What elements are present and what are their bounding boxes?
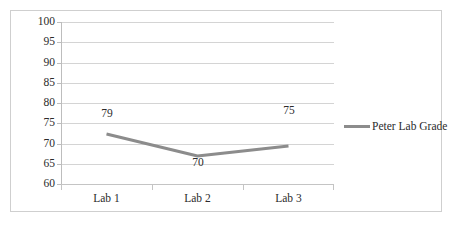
data-label-lab-2: 70 [176,157,220,169]
x-axis-tick [333,185,334,190]
y-axis-tick-label: 65 [15,158,55,170]
x-axis-tick [243,185,244,190]
y-axis-tick-label: 90 [15,57,55,69]
data-label-lab-1: 79 [85,108,129,120]
chart-frame: 100 95 90 85 80 75 70 65 60 Lab 1 Lab 2 … [10,10,442,212]
x-axis-label-lab-3: Lab 3 [243,193,334,205]
y-axis-tick-label: 80 [15,97,55,109]
legend: Peter Lab Grade [344,121,447,133]
x-axis-tick [152,185,153,190]
y-axis-tick-label: 70 [15,138,55,150]
x-axis-label-lab-2: Lab 2 [152,193,243,205]
x-axis-tick [61,185,62,190]
series-polyline [107,134,289,156]
x-axis-label-lab-1: Lab 1 [61,193,152,205]
y-axis-tick-label: 85 [15,77,55,89]
y-axis-tick-label: 95 [15,36,55,48]
legend-line-swatch [344,125,370,128]
y-axis-tick-label: 75 [15,117,55,129]
y-axis-tick-label: 100 [15,16,55,28]
y-axis-tick-label: 60 [15,178,55,190]
y-axis-labels: 100 95 90 85 80 75 70 65 60 [11,11,55,229]
legend-label-peter-lab-grade: Peter Lab Grade [371,121,447,133]
data-label-lab-3: 75 [267,105,311,117]
